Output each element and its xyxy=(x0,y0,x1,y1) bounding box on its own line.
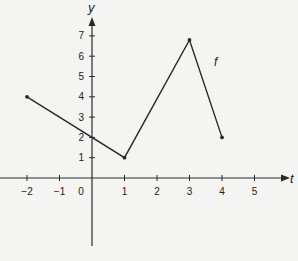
data-point xyxy=(25,95,29,99)
chart: −2−10123451234567 t y f xyxy=(0,0,298,261)
data-point xyxy=(220,136,224,140)
x-tick-label: −2 xyxy=(21,186,33,197)
y-tick-label: 7 xyxy=(78,30,84,41)
x-tick-label: 0 xyxy=(78,186,84,197)
x-axis-arrow-icon xyxy=(281,175,290,182)
y-axis-label: y xyxy=(87,0,96,15)
y-axis-arrow-icon xyxy=(89,17,96,26)
series xyxy=(25,38,224,160)
data-point xyxy=(123,156,127,160)
y-tick-label: 3 xyxy=(78,112,84,123)
x-tick-label: 5 xyxy=(252,186,258,197)
y-tick-label: 5 xyxy=(78,71,84,82)
curve-label: f xyxy=(214,55,219,69)
x-tick-label: 2 xyxy=(154,186,160,197)
x-tick-label: 3 xyxy=(187,186,193,197)
x-tick-label: 4 xyxy=(219,186,225,197)
x-tick-label: 1 xyxy=(122,186,128,197)
x-axis-label: t xyxy=(290,171,295,186)
series-line-f xyxy=(27,40,222,158)
y-tick-label: 6 xyxy=(78,51,84,62)
y-tick-label: 2 xyxy=(78,132,84,143)
x-tick-label: −1 xyxy=(54,186,66,197)
ticks: −2−10123451234567 xyxy=(21,30,257,197)
y-tick-label: 4 xyxy=(78,91,84,102)
axes xyxy=(0,17,290,246)
y-tick-label: 1 xyxy=(78,152,84,163)
data-point xyxy=(188,38,192,42)
